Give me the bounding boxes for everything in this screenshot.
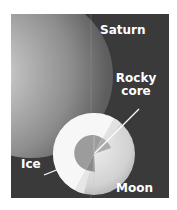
saturn-label: Saturn xyxy=(100,24,145,37)
saturn-moon-diagram: Saturn Rocky core Ice Moon xyxy=(11,14,169,198)
ice-label: Ice xyxy=(21,158,41,171)
moon-label: Moon xyxy=(116,182,153,195)
rocky-core-label: Rocky core xyxy=(111,72,161,98)
rocky-core-label-line2: core xyxy=(111,85,161,98)
